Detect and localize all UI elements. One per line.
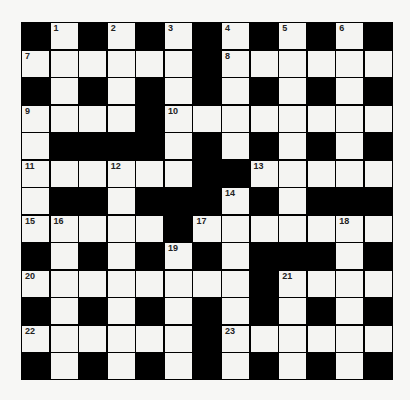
- letter-cell[interactable]: [222, 106, 249, 132]
- letter-cell[interactable]: [108, 326, 135, 352]
- letter-cell[interactable]: [279, 326, 306, 352]
- letter-cell[interactable]: [108, 353, 135, 379]
- letter-cell[interactable]: [222, 271, 249, 297]
- letter-cell[interactable]: 2: [108, 23, 135, 49]
- letter-cell[interactable]: [108, 106, 135, 132]
- letter-cell[interactable]: [165, 78, 192, 104]
- letter-cell[interactable]: [108, 243, 135, 269]
- letter-cell[interactable]: [51, 106, 78, 132]
- letter-cell[interactable]: 7: [22, 51, 49, 77]
- letter-cell[interactable]: [308, 51, 335, 77]
- letter-cell[interactable]: [365, 106, 392, 132]
- letter-cell[interactable]: [336, 326, 363, 352]
- letter-cell[interactable]: [251, 326, 278, 352]
- letter-cell[interactable]: [336, 298, 363, 324]
- letter-cell[interactable]: [251, 216, 278, 242]
- letter-cell[interactable]: [79, 51, 106, 77]
- letter-cell[interactable]: 22: [22, 326, 49, 352]
- letter-cell[interactable]: [308, 161, 335, 187]
- letter-cell[interactable]: [279, 161, 306, 187]
- letter-cell[interactable]: [193, 106, 220, 132]
- letter-cell[interactable]: 4: [222, 23, 249, 49]
- letter-cell[interactable]: [51, 298, 78, 324]
- letter-cell[interactable]: 23: [222, 326, 249, 352]
- letter-cell[interactable]: 13: [251, 161, 278, 187]
- letter-cell[interactable]: [193, 271, 220, 297]
- letter-cell[interactable]: [279, 51, 306, 77]
- letter-cell[interactable]: [365, 271, 392, 297]
- letter-cell[interactable]: [336, 271, 363, 297]
- letter-cell[interactable]: [279, 188, 306, 214]
- letter-cell[interactable]: [251, 51, 278, 77]
- letter-cell[interactable]: 10: [165, 106, 192, 132]
- letter-cell[interactable]: [222, 243, 249, 269]
- letter-cell[interactable]: 3: [165, 23, 192, 49]
- letter-cell[interactable]: [336, 78, 363, 104]
- letter-cell[interactable]: [79, 106, 106, 132]
- letter-cell[interactable]: [222, 78, 249, 104]
- letter-cell[interactable]: [108, 78, 135, 104]
- letter-cell[interactable]: [279, 78, 306, 104]
- letter-cell[interactable]: 20: [22, 271, 49, 297]
- letter-cell[interactable]: 18: [336, 216, 363, 242]
- letter-cell[interactable]: [79, 161, 106, 187]
- letter-cell[interactable]: 21: [279, 271, 306, 297]
- letter-cell[interactable]: [51, 161, 78, 187]
- letter-cell[interactable]: [165, 133, 192, 159]
- letter-cell[interactable]: [222, 216, 249, 242]
- letter-cell[interactable]: [136, 271, 163, 297]
- letter-cell[interactable]: [279, 216, 306, 242]
- letter-cell[interactable]: [51, 51, 78, 77]
- letter-cell[interactable]: [222, 353, 249, 379]
- letter-cell[interactable]: [165, 298, 192, 324]
- letter-cell[interactable]: 5: [279, 23, 306, 49]
- letter-cell[interactable]: [79, 216, 106, 242]
- letter-cell[interactable]: [251, 106, 278, 132]
- letter-cell[interactable]: 8: [222, 51, 249, 77]
- letter-cell[interactable]: [336, 243, 363, 269]
- letter-cell[interactable]: [108, 51, 135, 77]
- letter-cell[interactable]: [222, 133, 249, 159]
- letter-cell[interactable]: [108, 188, 135, 214]
- letter-cell[interactable]: [336, 133, 363, 159]
- letter-cell[interactable]: 14: [222, 188, 249, 214]
- letter-cell[interactable]: [22, 133, 49, 159]
- letter-cell[interactable]: [336, 161, 363, 187]
- letter-cell[interactable]: [51, 271, 78, 297]
- letter-cell[interactable]: [365, 216, 392, 242]
- letter-cell[interactable]: [79, 326, 106, 352]
- letter-cell[interactable]: 19: [165, 243, 192, 269]
- letter-cell[interactable]: [308, 216, 335, 242]
- letter-cell[interactable]: [22, 188, 49, 214]
- letter-cell[interactable]: [51, 243, 78, 269]
- letter-cell[interactable]: 16: [51, 216, 78, 242]
- letter-cell[interactable]: [136, 216, 163, 242]
- letter-cell[interactable]: [136, 161, 163, 187]
- letter-cell[interactable]: [165, 326, 192, 352]
- letter-cell[interactable]: [365, 51, 392, 77]
- letter-cell[interactable]: 6: [336, 23, 363, 49]
- letter-cell[interactable]: [51, 78, 78, 104]
- letter-cell[interactable]: [136, 326, 163, 352]
- letter-cell[interactable]: [51, 353, 78, 379]
- letter-cell[interactable]: [165, 51, 192, 77]
- letter-cell[interactable]: [222, 298, 249, 324]
- letter-cell[interactable]: [136, 51, 163, 77]
- letter-cell[interactable]: 11: [22, 161, 49, 187]
- letter-cell[interactable]: [79, 271, 106, 297]
- letter-cell[interactable]: [279, 133, 306, 159]
- letter-cell[interactable]: [365, 161, 392, 187]
- letter-cell[interactable]: [279, 353, 306, 379]
- letter-cell[interactable]: [336, 353, 363, 379]
- letter-cell[interactable]: 1: [51, 23, 78, 49]
- letter-cell[interactable]: [165, 271, 192, 297]
- letter-cell[interactable]: 9: [22, 106, 49, 132]
- letter-cell[interactable]: 17: [193, 216, 220, 242]
- letter-cell[interactable]: 12: [108, 161, 135, 187]
- letter-cell[interactable]: [165, 161, 192, 187]
- letter-cell[interactable]: [308, 271, 335, 297]
- letter-cell[interactable]: [51, 326, 78, 352]
- letter-cell[interactable]: [308, 326, 335, 352]
- letter-cell[interactable]: [308, 106, 335, 132]
- letter-cell[interactable]: [165, 353, 192, 379]
